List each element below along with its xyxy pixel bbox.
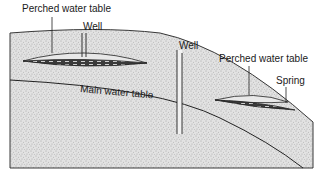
label-well-center: Well (179, 40, 198, 51)
label-spring: Spring (276, 75, 305, 86)
label-perched-water-table-upper: Perched water table (22, 3, 111, 14)
label-well-upper: Well (83, 21, 102, 32)
center-well (177, 50, 182, 134)
label-perched-water-table-right: Perched water table (219, 53, 308, 64)
groundwater-cross-section-diagram: Perched water table Well Well Perched wa… (0, 0, 321, 178)
